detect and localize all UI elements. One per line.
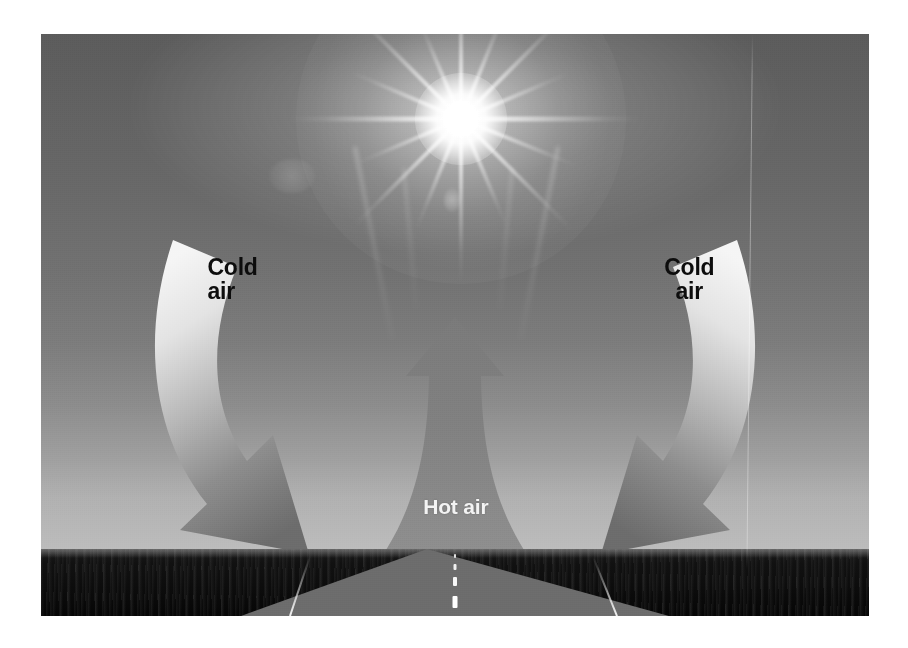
road-surface — [241, 549, 669, 616]
ground-scrubland — [41, 549, 869, 616]
cold-air-label-right: Cold air — [664, 256, 714, 303]
airflow-arrows-group — [41, 34, 869, 616]
convection-diagram-photo: Cold air Cold air Hot air — [41, 34, 869, 616]
page-root: Cold air Cold air Hot air — [0, 0, 908, 648]
hot-air-label: Hot air — [423, 496, 488, 517]
cold-air-label-left: Cold air — [207, 256, 257, 303]
